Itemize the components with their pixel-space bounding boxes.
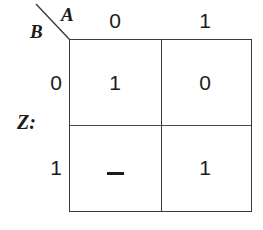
- karnaugh-map-figure: A B Z: 0 1 0 1 1 0 1: [0, 0, 263, 230]
- column-variable-label: A: [61, 5, 74, 24]
- output-label: Z:: [17, 112, 36, 132]
- kmap-cell-a0-b0: 1: [92, 72, 138, 93]
- kmap-cell-a1-b0: 0: [182, 72, 228, 93]
- row-header-1: 1: [44, 157, 68, 178]
- column-header-1: 1: [182, 10, 228, 31]
- row-header-0: 0: [44, 72, 68, 93]
- kmap-grid: [69, 39, 252, 212]
- row-variable-label: B: [30, 22, 43, 41]
- grid-divider-horizontal: [70, 125, 251, 126]
- column-header-0: 0: [92, 10, 138, 31]
- kmap-cell-a1-b1: 1: [182, 157, 228, 178]
- kmap-cell-a0-b1: [92, 157, 138, 178]
- dont-care-dash-icon: [107, 172, 124, 175]
